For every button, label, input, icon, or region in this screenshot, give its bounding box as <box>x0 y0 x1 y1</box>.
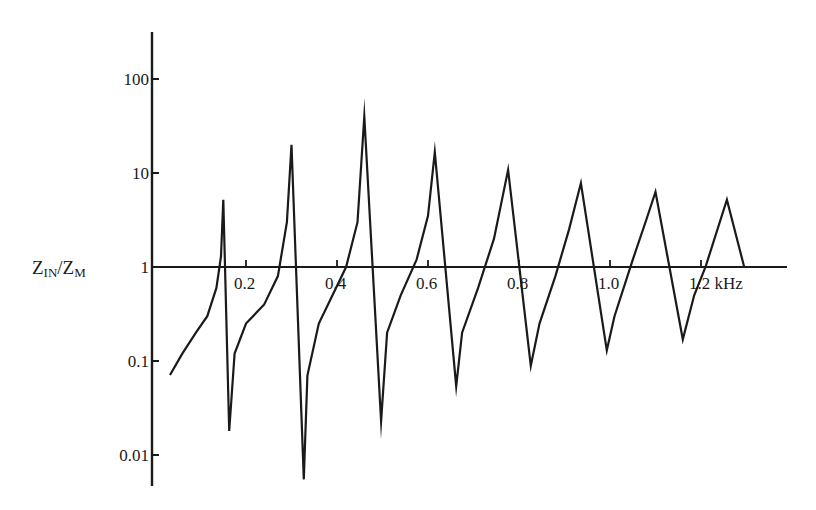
impedance-ratio-chart: 1001010.10.010.20.40.60.81.01.2 kHz ZIN/… <box>0 0 816 510</box>
y-tick-label: 100 <box>124 70 150 89</box>
y-tick-label: 1 <box>141 258 150 277</box>
y-tick-label: 0.01 <box>119 446 149 465</box>
impedance-curve <box>170 116 744 479</box>
y-axis-label: ZIN/ZM <box>32 257 86 280</box>
axes <box>152 32 787 486</box>
y-tick-label: 0.1 <box>128 352 149 371</box>
data-series-line <box>170 116 744 479</box>
y-tick-label: 10 <box>132 164 149 183</box>
axis-labels: ZIN/ZM <box>32 257 86 280</box>
x-tick-label: 1.0 <box>598 274 619 293</box>
x-tick-label: 0.6 <box>416 274 437 293</box>
x-tick-label: 0.8 <box>507 274 528 293</box>
x-tick-label: 0.2 <box>234 274 255 293</box>
